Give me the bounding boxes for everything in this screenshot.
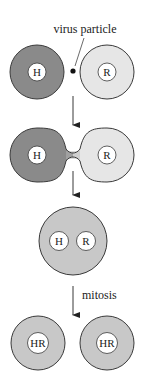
h-nucleus-label: H <box>55 235 63 247</box>
mitosis-label: mitosis <box>82 288 117 302</box>
hybrid-nucleus-label: HR <box>99 337 115 349</box>
r-nucleus-label: R <box>103 66 111 78</box>
cell-fusion-diagram: virus particle H R H R <box>0 0 145 384</box>
virus-particle-dot <box>70 68 75 73</box>
fusion-neck <box>66 151 80 159</box>
stage-heterokaryon: H R <box>39 207 107 275</box>
h-nucleus-label: H <box>33 66 41 78</box>
stage-hybrid-daughter-cells: HR HR <box>11 316 134 370</box>
h-cell: H <box>10 45 64 99</box>
hybrid-cell-right: HR <box>80 316 134 370</box>
r-nucleus-label: R <box>103 149 111 161</box>
hybrid-cell-left: HR <box>11 316 65 370</box>
stage-fusing-cells: H R <box>10 128 134 182</box>
virus-particle-label: virus particle <box>54 22 117 36</box>
h-nucleus-label: H <box>33 149 41 161</box>
hybrid-nucleus-label: HR <box>30 337 46 349</box>
stage-separate-cells: virus particle H R <box>10 22 134 99</box>
r-cell: R <box>80 45 134 99</box>
r-nucleus-label: R <box>82 235 90 247</box>
